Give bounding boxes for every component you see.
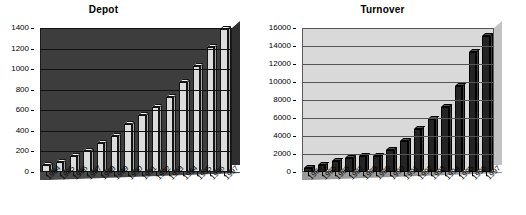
x-axis-tick-mark [60, 172, 61, 176]
x-axis-tick-mark [156, 172, 157, 176]
y-axis-tick-label: 800 [16, 86, 29, 94]
x-axis-tick-mark [224, 172, 225, 176]
chart-turnover: Turnover 0200040006000800010000120001400… [263, 0, 526, 215]
bar-front-face [179, 82, 187, 173]
bar [152, 107, 160, 172]
bar-side-face [490, 33, 493, 172]
y-axis-tick-mark [31, 69, 34, 70]
chart-turnover-side-wall [494, 21, 502, 165]
bar-side-face [214, 44, 217, 172]
bar-front-face [152, 107, 160, 172]
gridline [40, 49, 232, 50]
y-axis-tick-mark [31, 28, 34, 29]
chart-turnover-y-axis: 0200040006000800010000120001400016000 [263, 28, 296, 172]
y-axis-tick-label: 0 [287, 168, 291, 176]
y-axis-tick-mark [293, 100, 296, 101]
x-axis-tick-mark [404, 172, 405, 176]
y-axis-tick-label: 16000 [269, 24, 291, 32]
gridline [302, 154, 494, 155]
chart-turnover-title: Turnover [251, 4, 514, 15]
bar-side-face [173, 95, 176, 172]
x-axis-tick-mark [197, 172, 198, 176]
x-axis-tick-mark [169, 172, 170, 176]
gridline [302, 46, 494, 47]
chart-depot-x-axis: 1984198519861987198819891990199119921993… [40, 176, 240, 215]
y-axis-tick-label: 1400 [11, 24, 29, 32]
bar-front-face [166, 97, 174, 172]
bar-side-face [462, 83, 465, 172]
y-axis-tick-label: 600 [16, 106, 29, 114]
x-axis-tick-mark [431, 172, 432, 176]
chart-turnover-x-axis: 1984198519861987198819891990199119921993… [302, 176, 502, 215]
chart-depot-title: Depot [0, 4, 235, 15]
x-axis-tick-mark [363, 172, 364, 176]
x-axis-tick-mark [472, 172, 473, 176]
bar-side-face [449, 105, 452, 172]
bar-side-face [435, 116, 438, 172]
x-axis-tick-mark [183, 172, 184, 176]
charts-figure: Depot 0200400600800100012001400 19841985… [0, 0, 526, 215]
y-axis-tick-label: 1000 [11, 65, 29, 73]
y-axis-tick-mark [293, 82, 296, 83]
gridline [40, 28, 232, 29]
y-axis-tick-label: 2000 [273, 150, 291, 158]
gridline [40, 151, 232, 152]
y-axis-tick-mark [31, 90, 34, 91]
y-axis-tick-mark [31, 172, 34, 173]
x-axis-tick-mark [46, 172, 47, 176]
x-axis-tick-mark [73, 172, 74, 176]
y-axis-tick-mark [31, 151, 34, 152]
x-axis-tick-mark [376, 172, 377, 176]
y-axis-tick-mark [31, 131, 34, 132]
bar-side-face [159, 105, 162, 172]
bar-front-face [138, 115, 146, 172]
bar-front-face [455, 86, 463, 172]
x-axis-tick-mark [459, 172, 460, 176]
chart-depot: Depot 0200400600800100012001400 19841985… [0, 0, 263, 215]
x-axis-tick-mark [114, 172, 115, 176]
x-axis-tick-mark [210, 172, 211, 176]
x-axis-tick-mark [486, 172, 487, 176]
chart-depot-bars [40, 28, 232, 172]
x-axis-tick-mark [335, 172, 336, 176]
gridline [302, 136, 494, 137]
y-axis-tick-mark [293, 172, 296, 173]
y-axis-tick-mark [293, 28, 296, 29]
x-axis-tick-mark [349, 172, 350, 176]
bar [482, 36, 490, 172]
chart-depot-side-wall [232, 21, 240, 165]
bar [455, 86, 463, 172]
y-axis-tick-mark [293, 64, 296, 65]
y-axis-tick-mark [31, 110, 34, 111]
x-axis-tick-mark [142, 172, 143, 176]
y-axis-tick-label: 1200 [11, 45, 29, 53]
y-axis-tick-label: 400 [16, 127, 29, 135]
x-axis-tick-mark [322, 172, 323, 176]
x-axis-tick-mark [308, 172, 309, 176]
y-axis-tick-mark [31, 49, 34, 50]
y-axis-tick-label: 10000 [269, 78, 291, 86]
gridline [302, 28, 494, 29]
chart-depot-plot-area [40, 28, 232, 172]
bar-side-face [132, 121, 135, 172]
bar [138, 115, 146, 172]
bar [179, 82, 187, 173]
gridline [302, 118, 494, 119]
bar [166, 97, 174, 172]
gridline [40, 110, 232, 111]
y-axis-tick-mark [293, 136, 296, 137]
bar-front-face [193, 66, 201, 172]
y-axis-tick-label: 12000 [269, 60, 291, 68]
chart-turnover-plot-area [302, 28, 494, 172]
y-axis-tick-label: 0 [25, 168, 29, 176]
bar [193, 66, 201, 172]
y-axis-tick-label: 8000 [273, 96, 291, 104]
x-axis-tick-mark [418, 172, 419, 176]
y-axis-tick-label: 14000 [269, 42, 291, 50]
bar-side-face [200, 63, 203, 172]
y-axis-tick-label: 6000 [273, 114, 291, 122]
y-axis-tick-label: 4000 [273, 132, 291, 140]
gridline [302, 64, 494, 65]
y-axis-tick-mark [293, 46, 296, 47]
bar-side-face [421, 127, 424, 172]
